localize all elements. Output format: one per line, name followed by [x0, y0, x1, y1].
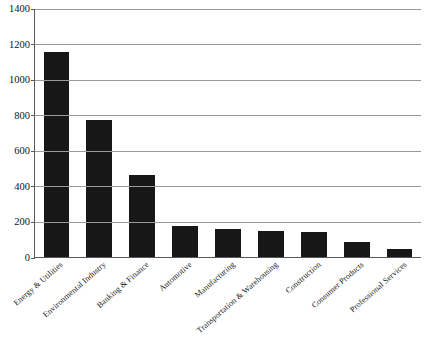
- gridline: [35, 9, 421, 10]
- y-axis-tick: [31, 151, 35, 152]
- bars-layer: [35, 9, 421, 257]
- y-axis-tick: [31, 9, 35, 10]
- bar[interactable]: [172, 226, 198, 257]
- y-axis-tick: [31, 80, 35, 81]
- gridline: [35, 151, 421, 152]
- gridline: [35, 80, 421, 81]
- bar[interactable]: [258, 231, 284, 257]
- bar[interactable]: [344, 242, 370, 257]
- x-axis-tick-label-text: Manufacturing: [193, 258, 239, 300]
- x-axis-tick-label-text: Automotive: [158, 258, 196, 293]
- y-axis-tick: [31, 222, 35, 223]
- bar[interactable]: [215, 229, 241, 257]
- gridline: [35, 222, 421, 223]
- x-axis-tick-labels: Energy & UtilitiesEnvironmental Industry…: [34, 258, 447, 362]
- bar[interactable]: [301, 232, 327, 257]
- y-axis-tick-label: 1000: [9, 75, 30, 86]
- y-axis-tick: [31, 44, 35, 45]
- x-axis-tick-label: Transportation & Warehousing: [195, 258, 282, 335]
- x-axis-tick-label: Construction: [284, 258, 325, 295]
- y-axis-tick-label: 1200: [9, 40, 30, 51]
- y-axis-tick-label: 0: [25, 253, 30, 264]
- plot-area: [34, 9, 421, 258]
- y-axis-tick-label: 800: [14, 111, 30, 122]
- gridline: [35, 44, 421, 45]
- y-axis-tick-label: 400: [14, 182, 30, 193]
- y-axis-tick-labels: 0200400600800100012001400: [0, 9, 30, 258]
- bar[interactable]: [44, 52, 70, 257]
- x-axis-tick-label: Automotive: [158, 258, 196, 293]
- gridline: [35, 115, 421, 116]
- bar[interactable]: [387, 249, 413, 257]
- y-axis-tick-label: 200: [14, 217, 30, 228]
- bar-chart: 0200400600800100012001400 Energy & Utili…: [0, 0, 447, 362]
- bar[interactable]: [86, 120, 112, 257]
- gridline: [35, 186, 421, 187]
- y-axis-tick: [31, 115, 35, 116]
- y-axis-tick: [31, 186, 35, 187]
- x-axis-tick-label-text: Construction: [284, 258, 325, 295]
- y-axis-tick-label: 600: [14, 146, 30, 157]
- y-axis-tick-label: 1400: [9, 4, 30, 15]
- bar[interactable]: [129, 175, 155, 257]
- x-axis-tick-label: Manufacturing: [193, 258, 239, 300]
- x-axis-tick-label-text: Transportation & Warehousing: [195, 258, 282, 335]
